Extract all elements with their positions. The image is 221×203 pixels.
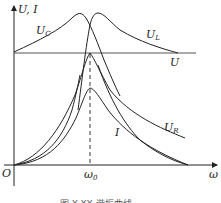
label-u: U [170,56,180,69]
curve-uc [14,14,120,97]
omega0-label: ω0 [84,168,98,182]
label-ul: UL [146,28,160,42]
figure-caption: 图 X-XX 谐振曲线 [60,198,132,203]
label-uc: UC [36,24,51,38]
x-axis-label: ω [209,168,218,181]
origin-label: O [2,167,11,180]
label-ur: UR [164,121,179,135]
label-i: I [114,126,120,139]
curve-i [14,88,188,165]
resonance-diagram: U, I UC UL U UR I O ω0 ω 图 X-XX 谐振曲线 [0,0,221,203]
curve-inner-left [14,75,80,165]
y-axis-label: U, I [18,3,38,16]
curve-ul [78,13,178,110]
